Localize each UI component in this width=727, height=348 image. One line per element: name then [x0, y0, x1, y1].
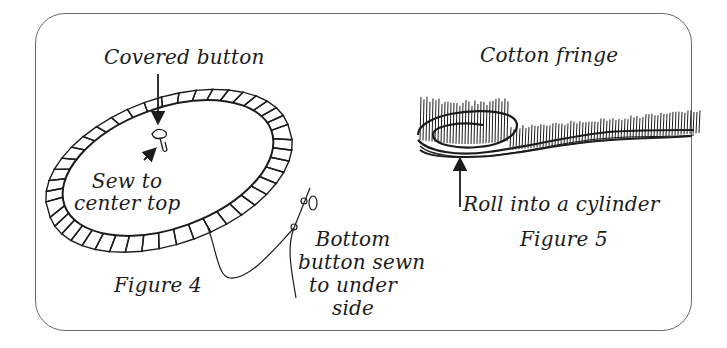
label-sew-line2: center top [74, 192, 181, 214]
figure-4-caption: Figure 4 [114, 274, 202, 296]
label-bottom-line3: to under [298, 274, 408, 296]
label-roll-into-cylinder: Roll into a cylinder [463, 193, 660, 215]
label-bottom-line4: side [298, 297, 408, 319]
label-bottom-line1: Bottom [298, 228, 408, 250]
figure-5-caption: Figure 5 [520, 228, 608, 250]
label-sew-line1: Sew to [72, 170, 182, 192]
button-icon [152, 129, 167, 151]
label-bottom-line2: button sewn [298, 251, 408, 273]
label-cotton-fringe: Cotton fringe [480, 44, 618, 66]
cotton-fringe-drawing [418, 97, 700, 157]
label-covered-button: Covered button [104, 46, 265, 68]
arrow-icon [144, 151, 153, 160]
